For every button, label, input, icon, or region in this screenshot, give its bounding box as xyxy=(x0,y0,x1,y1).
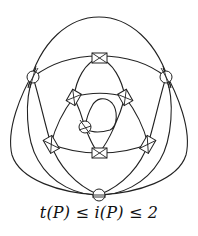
inner-crossbar xyxy=(74,93,125,97)
box-marker-bottom xyxy=(92,148,107,158)
box-marker-upper-right xyxy=(118,89,133,105)
inner-upper-arc xyxy=(74,58,99,97)
right-upper-outer-arc xyxy=(148,77,166,144)
middle-loop xyxy=(27,56,171,195)
inner-right-arc xyxy=(125,97,148,144)
box-marker-left xyxy=(43,135,59,153)
knot-diagram xyxy=(0,0,198,236)
left-upper-outer-arc xyxy=(33,77,51,144)
inner-left-arc xyxy=(51,97,74,144)
box-marker-upper-left xyxy=(66,89,81,105)
inner-upper-arc-right xyxy=(99,58,125,97)
figure-caption: t(P) ≤ i(P) ≤ 2 xyxy=(0,203,198,222)
box-marker-top xyxy=(92,53,107,63)
box-marker-right xyxy=(140,135,156,153)
